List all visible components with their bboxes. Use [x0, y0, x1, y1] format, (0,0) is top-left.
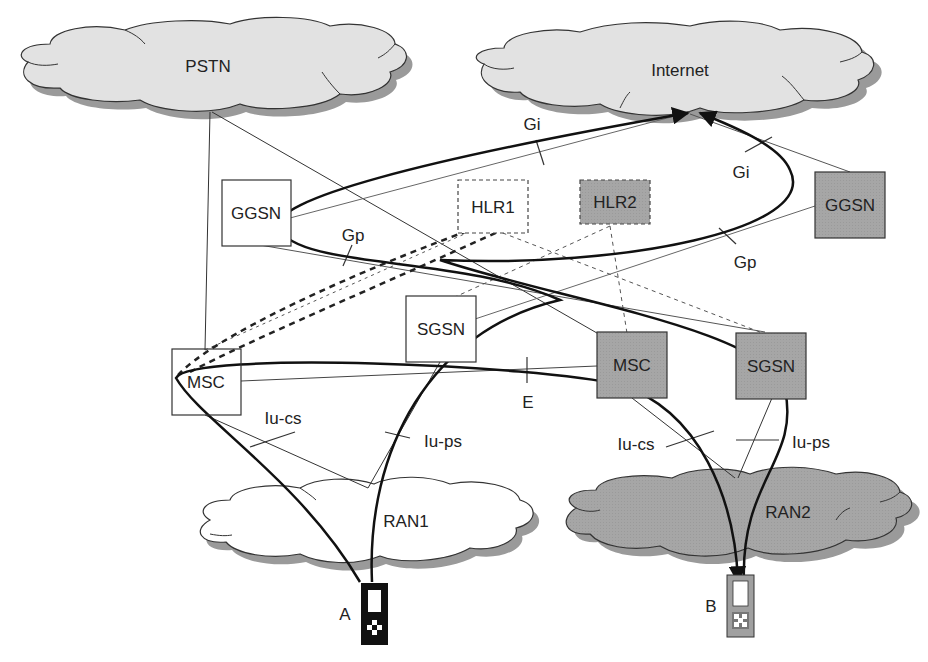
ran2-cloud: RAN2 — [566, 467, 919, 564]
sgsn2-ran2-iups-link — [738, 398, 772, 478]
msc2-label: MSC — [613, 356, 651, 375]
iu-cs-right-label: Iu-cs — [618, 435, 655, 454]
pstn-cloud: PSTN — [21, 17, 412, 119]
ran2-label: RAN2 — [765, 503, 810, 522]
ran1-cloud: RAN1 — [200, 477, 539, 570]
terminal-b[interactable]: B — [705, 575, 754, 637]
mobile-phone-b-icon — [727, 575, 754, 637]
hlr1-sgsn2-link — [495, 230, 765, 334]
internet-label: Internet — [651, 61, 709, 80]
iu-ps-right-label: Iu-ps — [792, 433, 830, 452]
ggsn1-node[interactable]: GGSN — [222, 180, 291, 246]
ggsn2-node[interactable]: GGSN — [815, 172, 885, 238]
iu-ps-left-label: Iu-ps — [424, 432, 462, 451]
gp-right-label: Gp — [734, 253, 757, 272]
sgsn1-node[interactable]: SGSN — [406, 296, 476, 362]
terminal-a-label: A — [339, 605, 351, 624]
ggsn2-internet-gi-link — [690, 114, 850, 172]
mobile-phone-a-icon — [361, 583, 388, 645]
gi-right-label: Gi — [733, 163, 750, 182]
ran1-label: RAN1 — [383, 512, 428, 531]
hlr2-node[interactable]: HLR2 — [580, 180, 650, 224]
sgsn2-node[interactable]: SGSN — [736, 333, 806, 399]
interface-labels: Gi Gi Gp Gp E Iu-cs Iu-ps Iu-cs Iu-ps — [265, 115, 830, 454]
sgsn1-label: SGSN — [417, 320, 465, 339]
msc1-label: MSC — [187, 373, 225, 392]
network-diagram: PSTN Internet RAN1 RAN2 — [0, 0, 928, 662]
gp-left-label: Gp — [342, 226, 365, 245]
terminal-b-label: B — [705, 597, 716, 616]
hlr1-node[interactable]: HLR1 — [458, 180, 528, 233]
internet-cloud: Internet — [476, 21, 881, 123]
gi-left-label: Gi — [524, 115, 541, 134]
hlr2-label: HLR2 — [593, 193, 636, 212]
sgsn2-label: SGSN — [747, 357, 795, 376]
ggsn1-label: GGSN — [231, 204, 281, 223]
ggsn1-sgsn2-gp-link — [260, 245, 765, 332]
pstn-label: PSTN — [185, 57, 230, 76]
msc2-node[interactable]: MSC — [597, 332, 667, 398]
terminal-a[interactable]: A — [339, 583, 388, 645]
iu-cs-left-label: Iu-cs — [265, 409, 302, 428]
pstn-msc1-link — [205, 112, 210, 350]
msc1-node[interactable]: MSC — [172, 349, 241, 415]
ggsn2-label: GGSN — [825, 196, 875, 215]
hlr1-label: HLR1 — [471, 198, 514, 217]
e-label: E — [522, 393, 533, 412]
